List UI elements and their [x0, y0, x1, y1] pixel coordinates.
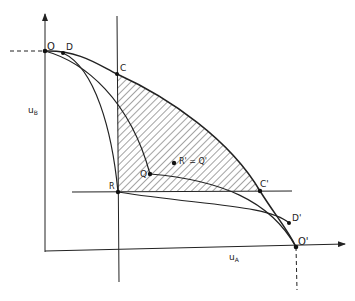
point-R-prime-Q-prime	[172, 161, 176, 165]
point-D-prime	[287, 221, 291, 225]
label-D: D	[66, 43, 73, 52]
label-O-prime: O'	[298, 237, 309, 247]
y-axis-label: uB	[28, 106, 38, 116]
label-R: R	[109, 183, 115, 191]
point-Q	[148, 172, 152, 176]
label-R-prime-eq-Q-prime: R' = Q'	[179, 158, 207, 166]
point-C	[115, 72, 119, 76]
y-axis-label-sub: B	[34, 109, 38, 116]
label-C-prime: C'	[260, 180, 269, 189]
curve-D-R	[63, 53, 118, 192]
label-O: O	[47, 42, 55, 52]
point-C-prime	[258, 189, 262, 193]
point-D	[61, 51, 65, 55]
label-Q: Q	[140, 170, 147, 179]
point-R	[116, 190, 120, 194]
x-axis-label-sub: A	[235, 256, 239, 263]
label-D-prime: D'	[292, 214, 301, 223]
x-axis-label: uA	[229, 253, 239, 263]
shaded-region	[117, 74, 260, 191]
dashed-vertical-O-prime	[296, 247, 297, 290]
diagram-canvas: O D C R Q R' = Q' C' D' O' uB uA	[0, 0, 355, 301]
label-C: C	[120, 64, 126, 73]
